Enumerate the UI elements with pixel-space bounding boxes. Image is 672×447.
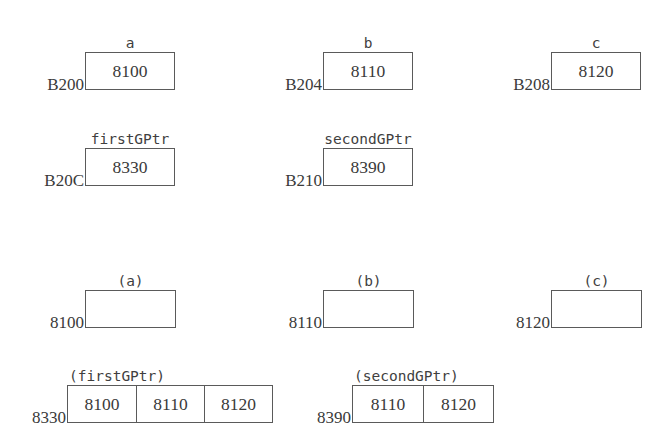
- array-firstgptr-address-label: 8330: [32, 409, 66, 426]
- target-c-box: [551, 290, 642, 328]
- target-b-caption: (b): [355, 274, 381, 289]
- var-b: bB2048110: [323, 52, 413, 90]
- target-a: (a)8100: [85, 290, 176, 328]
- target-c-cell-0: [552, 291, 641, 327]
- var-a-address-label: B200: [47, 76, 84, 93]
- var-firstgptr-address-label: B20C: [44, 172, 84, 189]
- target-b-cell-0: [324, 291, 413, 327]
- var-secondgptr-box: 8390: [323, 148, 413, 186]
- array-secondgptr-address-label: 8390: [317, 409, 351, 426]
- var-a-caption: a: [126, 36, 135, 51]
- array-secondgptr: (secondGPtr)839081108120: [352, 385, 494, 423]
- array-secondgptr-caption: (secondGPtr): [354, 369, 459, 384]
- array-secondgptr-box: 81108120: [352, 385, 494, 423]
- array-firstgptr-box: 810081108120: [67, 385, 273, 423]
- target-b-box: [323, 290, 414, 328]
- var-b-box: 8110: [323, 52, 413, 90]
- array-secondgptr-cell-1: 8120: [423, 386, 493, 422]
- var-firstgptr-box: 8330: [85, 148, 175, 186]
- var-firstgptr-caption: firstGPtr: [91, 132, 170, 147]
- var-b-address-label: B204: [285, 76, 322, 93]
- target-a-caption: (a): [117, 274, 143, 289]
- var-secondgptr-address-label: B210: [285, 172, 322, 189]
- array-firstgptr-cell-1: 8110: [136, 386, 204, 422]
- var-a: aB2008100: [85, 52, 175, 90]
- var-secondgptr-caption: secondGPtr: [324, 132, 411, 147]
- var-firstgptr-cell-0: 8330: [86, 149, 174, 185]
- var-a-box: 8100: [85, 52, 175, 90]
- array-firstgptr-cell-0: 8100: [68, 386, 136, 422]
- var-a-cell-0: 8100: [86, 53, 174, 89]
- target-a-cell-0: [86, 291, 175, 327]
- target-c: (c)8120: [551, 290, 642, 328]
- array-firstgptr-caption: (firstGPtr): [69, 369, 165, 384]
- var-secondgptr: secondGPtrB2108390: [323, 148, 413, 186]
- var-firstgptr: firstGPtrB20C8330: [85, 148, 175, 186]
- var-c: cB2088120: [551, 52, 641, 90]
- var-c-address-label: B208: [513, 76, 550, 93]
- var-b-caption: b: [364, 36, 373, 51]
- memory-diagram-canvas: aB2008100bB2048110cB2088120firstGPtrB20C…: [0, 0, 672, 447]
- target-c-caption: (c): [583, 274, 609, 289]
- var-c-caption: c: [592, 36, 601, 51]
- target-b-address-label: 8110: [289, 314, 322, 331]
- var-b-cell-0: 8110: [324, 53, 412, 89]
- target-b: (b)8110: [323, 290, 414, 328]
- target-a-address-label: 8100: [50, 314, 84, 331]
- array-secondgptr-cell-0: 8110: [353, 386, 423, 422]
- array-firstgptr: (firstGPtr)8330810081108120: [67, 385, 273, 423]
- var-c-box: 8120: [551, 52, 641, 90]
- array-firstgptr-cell-2: 8120: [204, 386, 272, 422]
- var-c-cell-0: 8120: [552, 53, 640, 89]
- target-c-address-label: 8120: [516, 314, 550, 331]
- var-secondgptr-cell-0: 8390: [324, 149, 412, 185]
- target-a-box: [85, 290, 176, 328]
